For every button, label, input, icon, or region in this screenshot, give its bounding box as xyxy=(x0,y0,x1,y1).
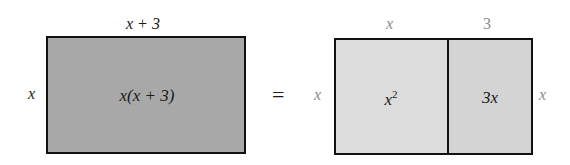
equals-sign: = xyxy=(272,87,284,103)
right-right-label: x xyxy=(539,87,546,103)
right-top-label-x: x xyxy=(386,16,393,32)
square-area-base: x xyxy=(384,90,392,109)
right-top-label-3: 3 xyxy=(483,16,491,32)
square-area-label: x2 xyxy=(384,86,397,108)
strip-area-label: 3x xyxy=(482,89,498,106)
left-side-label: x xyxy=(28,86,35,102)
left-top-label: x + 3 xyxy=(126,16,160,32)
right-left-label: x xyxy=(314,87,321,103)
square-area-exponent: 2 xyxy=(392,88,398,100)
left-area-label: x(x + 3) xyxy=(120,87,175,104)
